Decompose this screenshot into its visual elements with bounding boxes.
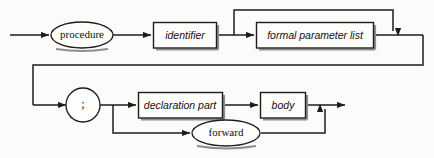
node-identifier: identifier: [154, 23, 219, 50]
node-procedure: procedure: [51, 22, 113, 51]
node-declaration-part-label: declaration part: [144, 99, 217, 111]
node-body-label: body: [272, 99, 296, 111]
node-identifier-label: identifier: [165, 29, 205, 41]
node-forward-label: forward: [209, 126, 244, 138]
node-semicolon: ;: [66, 88, 100, 122]
node-procedure-label: procedure: [60, 28, 104, 40]
railroad-diagram: procedure identifier formal parameter li…: [0, 0, 434, 158]
node-semicolon-label: ;: [81, 97, 84, 111]
node-declaration-part: declaration part: [139, 93, 225, 120]
node-forward: forward: [192, 120, 260, 149]
node-formal-parameter-list: formal parameter list: [257, 23, 376, 50]
node-formal-parameter-list-label: formal parameter list: [267, 29, 364, 41]
node-body: body: [261, 93, 308, 120]
